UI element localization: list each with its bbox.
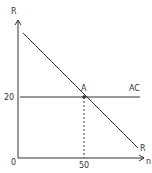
economics-diagram: R n 0 20 50 A AC R — [0, 0, 152, 173]
r-line-label: R — [140, 144, 146, 153]
point-a-label: A — [81, 84, 87, 93]
x-axis-label: n — [146, 157, 151, 166]
ac-line-label: AC — [129, 84, 140, 93]
y-axis-label: R — [11, 7, 17, 16]
y-axis — [15, 20, 21, 158]
y-tick-label: 20 — [4, 93, 14, 102]
origin-label: 0 — [11, 158, 16, 167]
x-tick-label: 50 — [79, 161, 89, 170]
point-a-marker — [82, 95, 86, 99]
